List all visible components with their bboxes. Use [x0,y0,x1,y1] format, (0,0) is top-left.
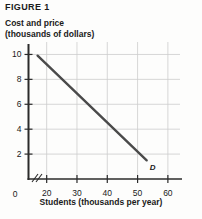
axis-break-icon [32,174,42,182]
series-label-d: D [150,163,156,172]
figure-container: FIGURE 1 Cost and price (thousands of do… [0,0,202,219]
y-tick-label: 10 [12,49,22,59]
y-tick-label: 6 [17,99,22,109]
vertical-gridlines-group [47,42,168,179]
y-tick-label: 8 [17,74,22,84]
y-tick-label: 2 [17,149,22,159]
x-axis-title: Students (thousands per year) [0,197,202,207]
demand-curve-group [38,56,147,161]
series-annotations-group: D [150,163,156,172]
y-tick-label: 4 [17,124,22,134]
demand-curve-line [38,56,147,161]
chart-plot: 246810 2030405060 D 0 [0,0,202,219]
